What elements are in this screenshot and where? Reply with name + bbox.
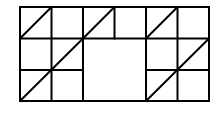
diagonal-line [20, 7, 52, 39]
diagonal-line [146, 7, 178, 39]
diagonal-line [83, 7, 115, 39]
grid-lines [20, 7, 209, 101]
grid-diagram [0, 0, 220, 115]
